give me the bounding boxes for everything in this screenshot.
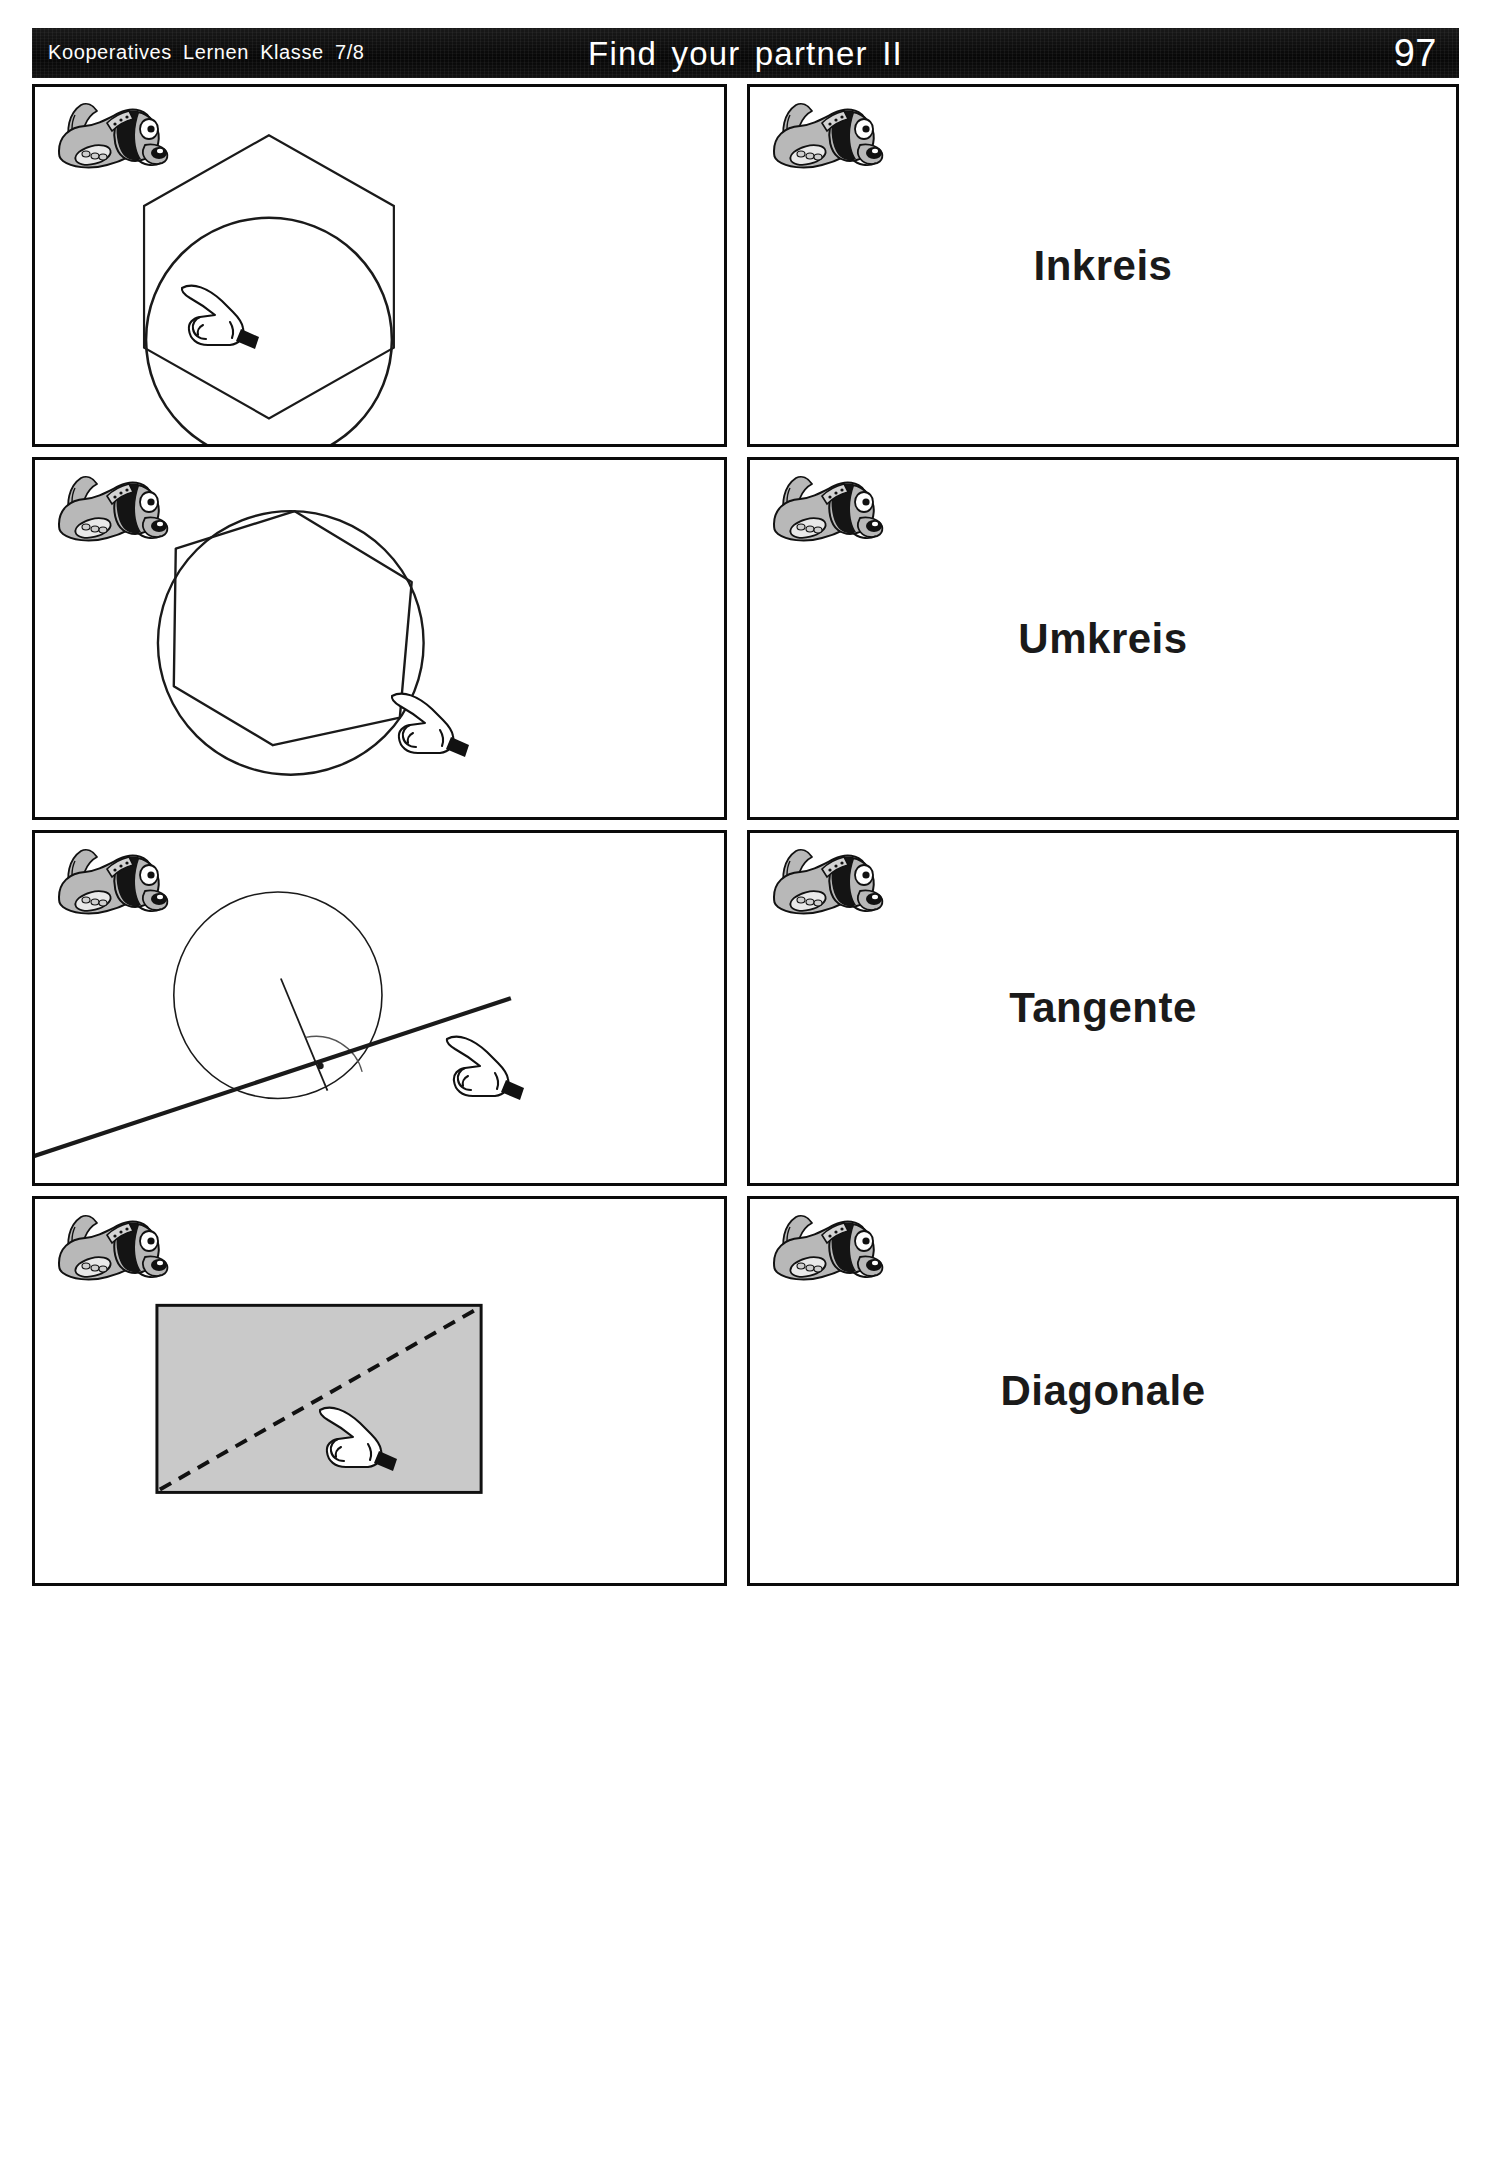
pointing-hand-icon xyxy=(385,675,505,765)
term-card-diagonale[interactable]: Diagonale xyxy=(747,1196,1459,1586)
card-grid: Inkreis xyxy=(32,84,1459,2124)
dog-mascot-icon xyxy=(45,1205,173,1297)
dog-mascot-icon xyxy=(760,93,888,185)
term-card-tangente[interactable]: Tangente xyxy=(747,830,1459,1186)
dog-mascot-icon xyxy=(760,466,888,558)
dog-mascot-icon xyxy=(760,1205,888,1297)
figure-card-tangente[interactable] xyxy=(32,830,727,1186)
dog-mascot-icon xyxy=(45,466,173,558)
dog-mascot-icon xyxy=(760,839,888,931)
page-header: Kooperatives Lernen Klasse 7/8 Find your… xyxy=(32,28,1459,78)
pointing-hand-icon xyxy=(440,1018,560,1108)
term-label: Inkreis xyxy=(1034,242,1173,290)
term-card-inkreis[interactable]: Inkreis xyxy=(747,84,1459,447)
figure-card-inkreis[interactable] xyxy=(32,84,727,447)
page-number: 97 xyxy=(1394,32,1437,75)
worksheet-page: Kooperatives Lernen Klasse 7/8 Find your… xyxy=(0,0,1511,2168)
figure-card-diagonale[interactable] xyxy=(32,1196,727,1586)
figure-card-umkreis[interactable] xyxy=(32,457,727,820)
pointing-hand-icon xyxy=(175,267,295,357)
pointing-hand-icon xyxy=(313,1389,433,1479)
term-label: Umkreis xyxy=(1018,615,1187,663)
dog-mascot-icon xyxy=(45,839,173,931)
term-label: Diagonale xyxy=(1000,1367,1205,1415)
term-card-umkreis[interactable]: Umkreis xyxy=(747,457,1459,820)
term-label: Tangente xyxy=(1009,984,1197,1032)
dog-mascot-icon xyxy=(45,93,173,185)
page-title: Find your partner II xyxy=(32,35,1459,73)
